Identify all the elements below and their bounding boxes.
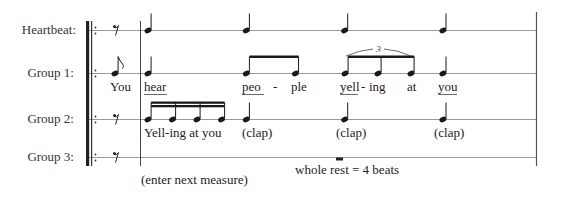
repeat-dots (95, 27, 97, 162)
lyric-ple: ple (291, 79, 307, 94)
row-label-group2: Group 2: (27, 111, 74, 126)
notes-layer (111, 14, 448, 124)
heartbeat-quarter-note-3 (340, 14, 349, 35)
triplet-bracket: 3 (346, 44, 411, 56)
lyric-peo: peo (242, 79, 261, 94)
lyric-at: at (407, 79, 417, 94)
lyric-clap-3: (clap) (434, 125, 464, 140)
heartbeat-quarter-note-1 (144, 14, 153, 35)
lyric-hyphen-2: - (361, 79, 365, 94)
lyric-yelling-at-you: Yell-ing at you (144, 125, 222, 140)
whole-rest-annotation: whole rest = 4 beats (295, 162, 399, 177)
group2-lyrics: Yell-ing at you (clap) (clap) (clap) (144, 125, 464, 140)
rhythm-score: Heartbeat: Group 1: Group 2: Group 3: Yo… (0, 0, 564, 197)
group1-quarter-note-7 (439, 57, 448, 78)
row-label-heartbeat: Heartbeat: (22, 22, 76, 37)
enter-next-measure-annotation: (enter next measure) (141, 172, 248, 187)
lyric-yell: yell (340, 79, 360, 94)
whole-rest (336, 158, 343, 161)
group1-quarter-note-1 (144, 57, 153, 78)
thick-barline (86, 21, 89, 166)
lyric-you: you (438, 79, 458, 94)
group1-triplet-eighth-note-6 (407, 57, 416, 78)
group1-eighth-note-3 (291, 57, 300, 78)
heartbeat-quarter-note-2 (242, 14, 251, 35)
beam-sixteenth-secondary (151, 105, 225, 107)
row-label-group3: Group 3: (27, 149, 74, 164)
beam-sixteenth-primary (151, 102, 225, 104)
beam-peo-ple (249, 56, 298, 59)
triplet-number: 3 (375, 44, 381, 54)
heartbeat-quarter-note-4 (439, 14, 448, 35)
lyric-clap-2: (clap) (336, 125, 366, 140)
group1-pickup-eighth-note (111, 57, 124, 78)
group2-sixteenth-note-1 (144, 103, 153, 124)
lyric-hear: hear (144, 79, 167, 94)
group1-lyrics: You hear peo - ple yell - ing at you (110, 79, 458, 94)
lyric-clap-1: (clap) (242, 125, 272, 140)
group1-triplet-eighth-note-4 (341, 57, 350, 78)
lyric-ing: ing (369, 79, 386, 94)
lyric-hyphen-1: - (273, 79, 277, 94)
lyric-you-pickup: You (110, 79, 132, 94)
group2-quarter-note-6 (340, 103, 349, 124)
group1-triplet-eighth-note-5 (374, 57, 383, 78)
beam-triplet (348, 56, 414, 59)
thin-barline (91, 21, 92, 166)
row-label-group1: Group 1: (27, 65, 74, 80)
group2-quarter-note-5 (242, 103, 251, 124)
group2-quarter-note-7 (439, 103, 448, 124)
group1-eighth-note-2 (242, 57, 251, 78)
